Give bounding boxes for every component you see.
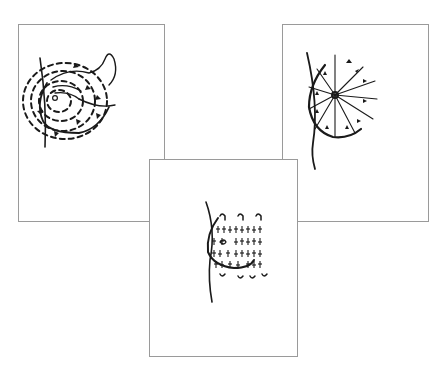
vertical-strip-pattern-illustration	[150, 160, 299, 358]
circular-pattern-illustration	[19, 25, 166, 223]
wedge-pattern-illustration	[283, 25, 430, 223]
panel-wedge-pattern: Wedge (radial spoke) pattern	[282, 24, 429, 222]
panel-vertical-strip-pattern: Vertical strip (up-and-down) pattern	[149, 159, 298, 357]
panel-circular-pattern: Circular (spiral) pattern	[18, 24, 165, 222]
